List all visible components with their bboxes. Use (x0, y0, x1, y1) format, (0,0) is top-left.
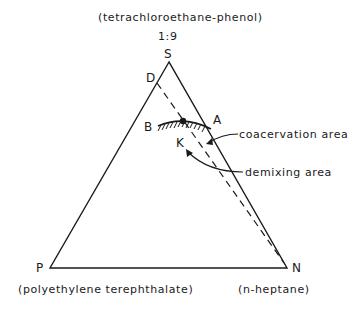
point-a-label: A (213, 114, 221, 126)
critical-point-dot (180, 118, 186, 124)
demixing-arrow (188, 152, 243, 172)
coacervation-area-label: coacervation area (239, 129, 348, 140)
vertex-s-label: S (164, 48, 172, 60)
p-component-label: (polyethylene terephthalate) (18, 284, 193, 295)
point-b-label: B (144, 121, 152, 133)
n-component-label: (n-heptane) (238, 284, 310, 295)
vertex-p-label: P (36, 262, 43, 274)
vertex-n-label: N (292, 262, 301, 274)
top-component-label: (tetrachloroethane-phenol) (98, 12, 263, 23)
coacervation-arrowhead (206, 138, 213, 145)
ratio-label: 1:9 (158, 31, 178, 42)
ternary-triangle (50, 62, 287, 268)
point-d-label: D (146, 72, 155, 84)
ternary-diagram (0, 0, 362, 311)
point-k-label: K (176, 137, 184, 149)
demixing-area-label: demixing area (245, 167, 332, 178)
